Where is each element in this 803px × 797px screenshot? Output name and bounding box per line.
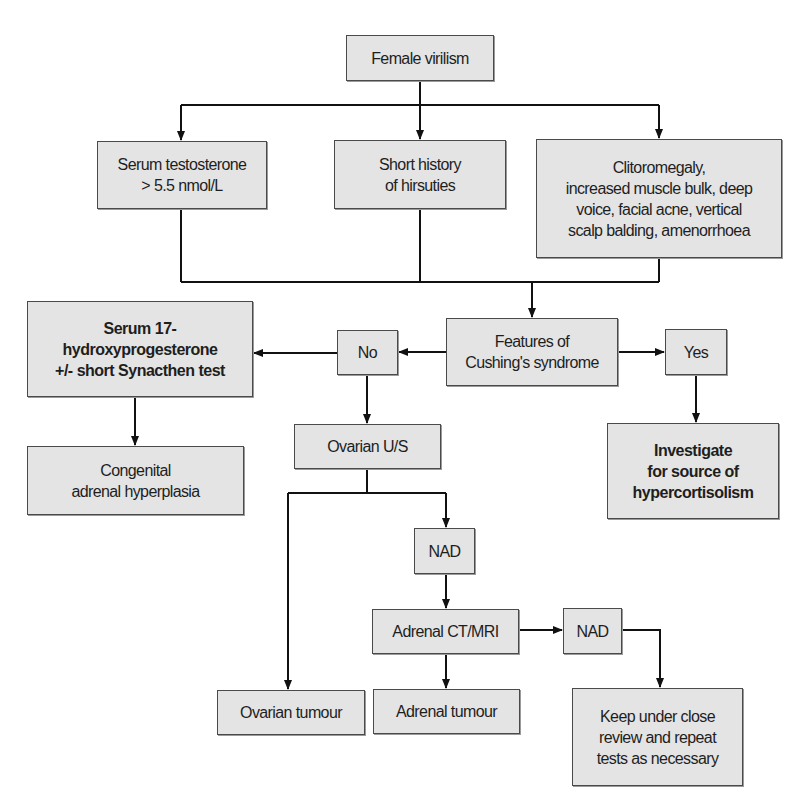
node-female-virilism: Female virilism (346, 35, 494, 81)
node-label: Investigate for source of hypercortisoli… (633, 440, 754, 503)
node-ovarian-tumour: Ovarian tumour (217, 690, 365, 735)
node-investigate-hypercortisolism: Investigate for source of hypercortisoli… (607, 423, 779, 519)
node-decision-no: No (337, 330, 398, 375)
node-label: Clitoromegaly, increased muscle bulk, de… (566, 157, 753, 241)
flowchart-female-virilism: Female virilism Serum testosterone > 5.5… (0, 0, 803, 797)
connector-lines (0, 0, 803, 797)
node-decision-yes: Yes (665, 329, 727, 375)
node-congenital-adrenal-hyperplasia: Congenital adrenal hyperplasia (27, 446, 244, 515)
node-nad-1: NAD (414, 528, 475, 574)
node-label: NAD (429, 541, 461, 562)
node-label: Serum 17- hydroxyprogesterone +/- short … (55, 318, 225, 381)
node-label: Ovarian tumour (240, 702, 342, 723)
node-label: Keep under close review and repeat tests… (597, 706, 719, 769)
node-serum-testosterone: Serum testosterone > 5.5 nmol/L (97, 141, 267, 209)
node-label: Adrenal tumour (396, 701, 497, 722)
node-label: Ovarian U/S (327, 436, 408, 457)
node-nad-2: NAD (563, 608, 622, 654)
node-label: Features of Cushing's syndrome (465, 331, 599, 373)
node-label: Congenital adrenal hyperplasia (71, 460, 199, 502)
node-adrenal-ct-mri: Adrenal CT/MRI (372, 609, 519, 654)
node-features-cushings: Features of Cushing's syndrome (446, 318, 618, 386)
node-short-history-hirsuties: Short history of hirsuties (334, 140, 506, 209)
node-label: Female virilism (371, 48, 469, 69)
node-label: No (358, 342, 377, 363)
node-label: Adrenal CT/MRI (392, 621, 498, 642)
node-clitoromegaly-features: Clitoromegaly, increased muscle bulk, de… (536, 139, 782, 258)
node-label: Short history of hirsuties (379, 154, 461, 196)
node-label: NAD (577, 621, 609, 642)
node-keep-under-review: Keep under close review and repeat tests… (572, 688, 743, 786)
node-ovarian-us: Ovarian U/S (294, 424, 441, 469)
node-adrenal-tumour: Adrenal tumour (373, 689, 520, 734)
node-serum-17-hydroxyprogesterone: Serum 17- hydroxyprogesterone +/- short … (27, 301, 253, 397)
node-label: Serum testosterone > 5.5 nmol/L (118, 154, 247, 196)
node-label: Yes (684, 342, 708, 363)
